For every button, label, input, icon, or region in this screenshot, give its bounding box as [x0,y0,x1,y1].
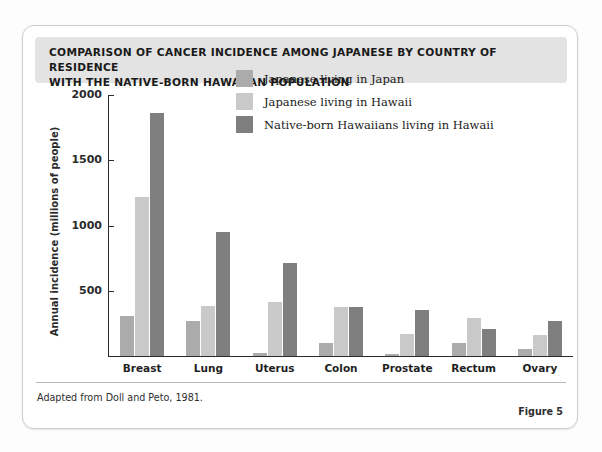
bar-colon-series-0 [319,343,333,356]
bar-group-ovary [518,95,562,356]
bar-lung-series-1 [201,306,215,356]
x-label-rectum: Rectum [440,362,506,374]
bar-ovary-series-2 [548,321,562,356]
bar-breast-series-2 [150,113,164,356]
y-tick-label-wrap: 2000 [54,95,102,96]
y-tick-label-wrap: 1500 [54,160,102,161]
bar-prostate-series-0 [385,354,399,356]
bar-rectum-series-1 [467,318,481,356]
bar-colon-series-1 [334,307,348,356]
legend-item-2: Native-born Hawaiians living in Hawaii [236,113,494,136]
x-label-prostate: Prostate [374,362,440,374]
x-label-colon: Colon [308,362,374,374]
bar-colon-series-2 [349,307,363,356]
bar-uterus-series-0 [253,353,267,356]
x-axis-line [108,356,573,357]
x-label-lung: Lung [175,362,241,374]
legend-label-0: Japanese living in Japan [264,72,404,86]
bar-lung-series-0 [186,321,200,356]
y-tick-0 [108,356,114,357]
chart-legend: Japanese living in JapanJapanese living … [236,67,494,136]
y-tick-label-wrap: 500 [54,291,102,292]
figure-page: COMPARISON OF CANCER INCIDENCE AMONG JAP… [0,0,602,452]
legend-swatch-2 [236,116,253,133]
bar-lung-series-2 [216,232,230,356]
y-tick-label-1500: 1500 [56,153,102,166]
y-tick-label-500: 500 [56,284,102,297]
bar-group-lung [186,95,230,356]
bar-ovary-series-0 [518,349,532,356]
legend-label-1: Japanese living in Hawaii [264,95,412,109]
figure-card: COMPARISON OF CANCER INCIDENCE AMONG JAP… [22,25,578,429]
source-note: Adapted from Doll and Peto, 1981. [37,392,203,403]
bar-uterus-series-1 [268,302,282,356]
chart-plot-area: Annual incidence (millions of people) 50… [23,26,579,430]
legend-label-2: Native-born Hawaiians living in Hawaii [264,118,494,132]
bar-group-breast [120,95,164,356]
bar-breast-series-0 [120,316,134,356]
footer-divider [36,382,566,383]
legend-swatch-1 [236,93,253,110]
legend-item-0: Japanese living in Japan [236,67,494,90]
y-axis-label: Annual incidence (millions of people) [49,117,60,347]
figure-number: Figure 5 [518,406,563,417]
bar-breast-series-1 [135,197,149,356]
legend-item-1: Japanese living in Hawaii [236,90,494,113]
bar-uterus-series-2 [283,263,297,356]
y-tick-label-2000: 2000 [56,88,102,101]
y-tick-label-wrap: 1000 [54,226,102,227]
y-tick-label-1000: 1000 [56,219,102,232]
legend-swatch-0 [236,70,253,87]
x-label-ovary: Ovary [507,362,573,374]
bar-prostate-series-1 [400,334,414,356]
x-label-uterus: Uterus [242,362,308,374]
bar-prostate-series-2 [415,310,429,356]
bar-ovary-series-1 [533,335,547,356]
bar-rectum-series-2 [482,329,496,356]
bar-rectum-series-0 [452,343,466,356]
x-label-breast: Breast [109,362,175,374]
